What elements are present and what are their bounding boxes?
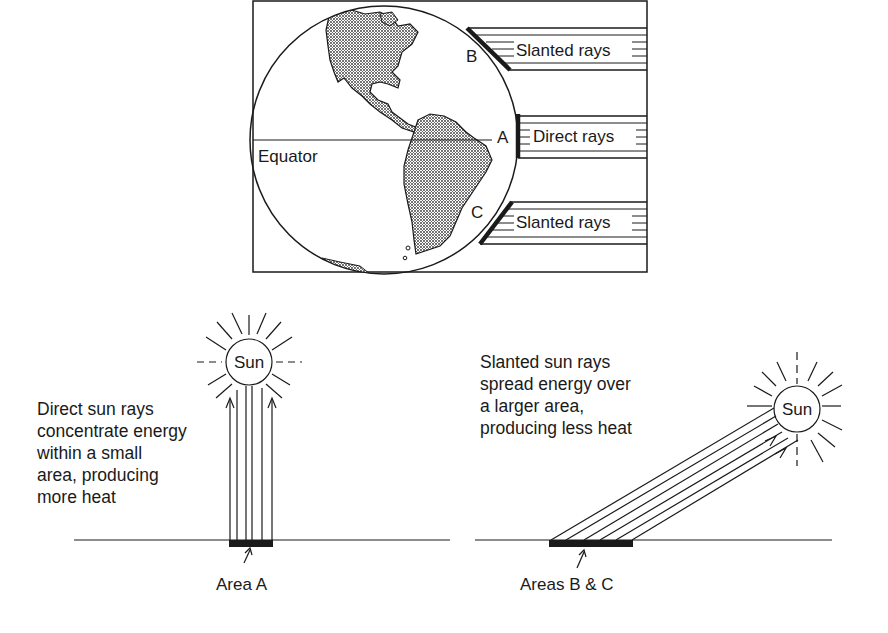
point-label-c: C — [471, 203, 483, 222]
sun-label-left: Sun — [234, 353, 264, 372]
sun-label-right: Sun — [782, 400, 812, 419]
direct-ray-bundle — [226, 386, 276, 540]
area-a-label: Area A — [216, 575, 267, 595]
direct-rays-description: Direct sun rays concentrate energy withi… — [37, 398, 187, 508]
diagram-canvas: Equator Slanted rays B Direct rays — [0, 0, 888, 633]
globe-panel: Equator Slanted rays B Direct rays — [250, 1, 647, 274]
equator-label: Equator — [258, 147, 318, 166]
ray-label-b: Slanted rays — [516, 41, 611, 60]
areas-bc-label: Areas B & C — [520, 575, 614, 595]
ray-label-c: Slanted rays — [516, 213, 611, 232]
point-label-b: B — [466, 47, 477, 66]
areas-bc-pointer — [577, 552, 584, 568]
point-label-a: A — [497, 128, 509, 147]
area-a-segment — [229, 540, 273, 547]
ray-label-a: Direct rays — [533, 127, 614, 146]
areas-bc-segment — [549, 540, 633, 547]
area-a-pointer — [244, 550, 250, 563]
slanted-rays-description: Slanted sun rays spread energy over a la… — [480, 351, 632, 439]
